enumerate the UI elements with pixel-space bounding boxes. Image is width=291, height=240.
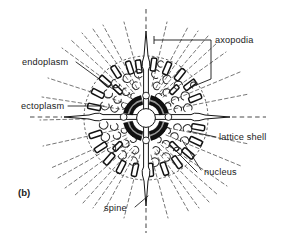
nucleus-core	[137, 109, 156, 128]
label-nucleus: nucleus	[204, 167, 237, 177]
nodule-south	[143, 137, 150, 144]
nodule-east	[165, 114, 172, 121]
spine-west	[64, 113, 140, 121]
spine-south	[142, 124, 150, 206]
nodule-north	[143, 92, 150, 99]
label-lattice-shell: lattice shell	[219, 132, 266, 142]
label-ectoplasm: ectoplasm	[21, 101, 64, 111]
label-spine: spine	[104, 203, 127, 213]
figure-panel-b: endoplasm ectoplasm axopodia lattice she…	[0, 0, 291, 240]
label-axopodia: axopodia	[215, 35, 254, 45]
label-endoplasm: endoplasm	[22, 57, 68, 67]
spine-north	[142, 31, 150, 112]
radiolarian-diagram: endoplasm ectoplasm axopodia lattice she…	[0, 0, 291, 240]
nodule-west	[120, 114, 127, 121]
panel-label: (b)	[18, 187, 30, 198]
